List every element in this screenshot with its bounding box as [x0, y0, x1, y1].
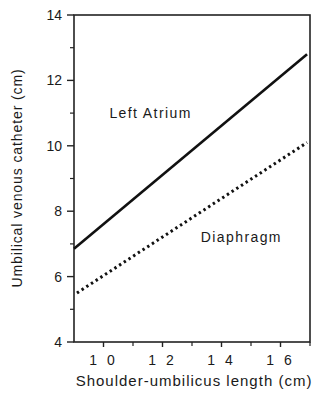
- y-tick-label: 10: [46, 138, 62, 154]
- annotation-left-atrium: Left Atrium: [109, 105, 191, 121]
- plot-frame: [74, 15, 310, 342]
- y-tick-label: 4: [54, 334, 62, 350]
- x-tick-label: 1 0: [89, 352, 117, 368]
- x-tick-label: 1 4: [207, 352, 235, 368]
- x-tick-label: 1 6: [266, 352, 294, 368]
- y-axis-ticks: 468101214: [46, 7, 74, 350]
- y-axis-label: Umbilical venous catheter (cm): [9, 68, 25, 287]
- y-tick-label: 14: [46, 7, 62, 23]
- x-axis-ticks: 1 01 21 41 6: [89, 342, 310, 368]
- x-axis-label: Shoulder-umbilicus length (cm): [76, 372, 313, 389]
- y-tick-label: 8: [54, 203, 62, 219]
- x-tick-label: 1 2: [148, 352, 176, 368]
- series-lines: [74, 54, 307, 293]
- y-tick-label: 12: [46, 72, 62, 88]
- line-chart: 468101214 1 01 21 41 6 Left AtriumDiaphr…: [0, 0, 329, 397]
- y-tick-label: 6: [54, 269, 62, 285]
- annotation-diaphragm: Diaphragm: [201, 229, 282, 245]
